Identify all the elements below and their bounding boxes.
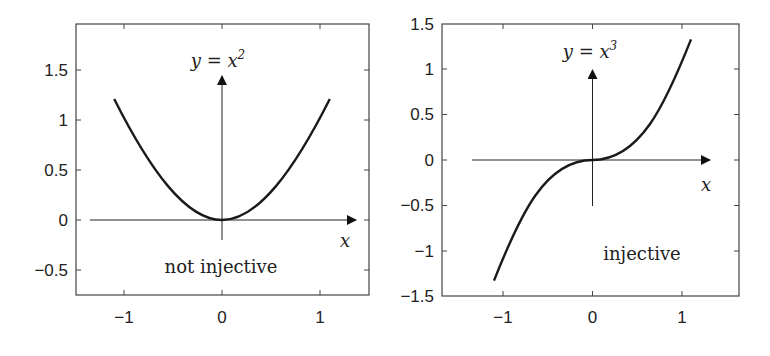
y-tick-label: 1.5	[410, 15, 434, 34]
x-tick-label: 0	[588, 308, 597, 327]
y-tick-label: 0	[425, 151, 434, 170]
annotation: not injective	[165, 256, 278, 277]
x-tick-labels: −1 0 1	[114, 308, 324, 327]
annotation: injective	[603, 243, 680, 264]
x-tick-labels: −1 0 1	[493, 308, 686, 327]
y-tick-label: 0	[59, 211, 68, 230]
x-axis-label: x	[340, 230, 350, 251]
y-tick-label: 0.5	[44, 161, 68, 180]
y-tick-label: 1	[59, 111, 68, 130]
y-tick-label: 1	[425, 60, 434, 79]
y-tick-label: 1.5	[44, 61, 68, 80]
y-tick-label: −0.5	[400, 196, 434, 215]
x-tick-label: −1	[493, 308, 512, 327]
y-tick-label: 0.5	[410, 105, 434, 124]
y-tick-label: −1.5	[400, 287, 434, 306]
x-tick-label: 0	[217, 308, 226, 327]
x-tick-label: −1	[114, 308, 133, 327]
x-tick-label: 1	[315, 308, 324, 327]
figure: −1 0 1 −0.5 0 0.5 1 1.5 y = x2 x not inj…	[0, 0, 770, 356]
x-axis-label: x	[701, 174, 711, 195]
y-tick-labels: −0.5 0 0.5 1 1.5	[34, 61, 68, 280]
y-tick-label: −0.5	[34, 261, 68, 280]
plot-square: −1 0 1 −0.5 0 0.5 1 1.5 y = x2 x not inj…	[34, 24, 369, 327]
x-tick-label: 1	[677, 308, 686, 327]
plot-cube: −1 0 1 −1.5 −1 −0.5 0 0.5 1 1.5 y = x3 x…	[400, 15, 739, 327]
function-label: y = x3	[562, 39, 618, 62]
y-tick-label: −1	[415, 242, 434, 261]
function-label: y = x2	[190, 48, 246, 71]
y-tick-labels: −1.5 −1 −0.5 0 0.5 1 1.5	[400, 15, 434, 306]
